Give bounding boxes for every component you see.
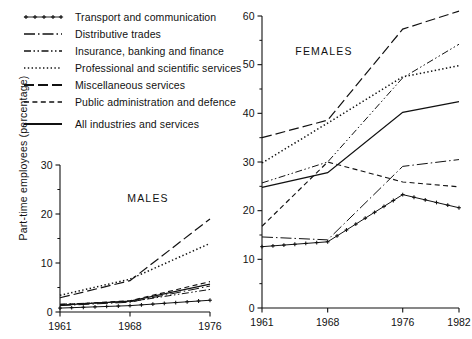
series-marker: [446, 203, 450, 207]
legend-item[interactable]: Public administration and defence: [22, 93, 237, 110]
series-marker: [185, 300, 189, 304]
legend-swatch-dashdotdot: [22, 44, 64, 58]
series-marker: [174, 301, 178, 305]
legend-item[interactable]: Professional and scientific services: [22, 59, 237, 76]
series-marker: [435, 201, 439, 205]
legend-item[interactable]: All industries and services: [22, 115, 237, 132]
y-tick-label: 10: [243, 253, 255, 265]
legend-item[interactable]: Miscellaneous services: [22, 76, 237, 93]
legend-swatch-longdashdot: [22, 27, 64, 41]
panel-title: FEMALES: [295, 45, 352, 57]
y-tick-label: 0: [47, 306, 53, 318]
series-marker: [197, 299, 201, 303]
chart-panel-males: 0102030196119681976MALES: [28, 155, 233, 339]
series-marker: [304, 242, 308, 246]
legend-item[interactable]: Insurance, banking and finance: [22, 42, 237, 59]
x-tick-label: 1976: [391, 316, 415, 328]
x-tick-label: 1961: [250, 316, 274, 328]
series-marker: [140, 303, 144, 307]
series-marker: [423, 198, 427, 202]
series-marker: [58, 306, 62, 310]
legend-item-label: Insurance, banking and finance: [75, 44, 224, 58]
series-marker: [271, 244, 275, 248]
series-marker: [93, 305, 97, 309]
x-tick-label: 1982: [447, 316, 471, 328]
y-tick-label: 0: [249, 302, 255, 314]
series-marker: [260, 245, 264, 249]
series-line-dashdotdot: [262, 44, 459, 183]
x-tick-label: 1968: [118, 320, 142, 332]
series-line-plus: [262, 195, 459, 247]
series-line-longdashdot: [262, 160, 459, 240]
series-line-dashed: [262, 162, 459, 226]
y-tick-label: 20: [243, 204, 255, 216]
series-marker: [162, 301, 166, 305]
series-marker: [116, 304, 120, 308]
series-marker: [457, 206, 461, 210]
legend-item[interactable]: Transport and communication: [22, 8, 237, 25]
y-tick-label: 30: [41, 159, 53, 171]
series-marker: [70, 306, 74, 310]
chart-svg: 0102030196119681976MALES: [28, 155, 233, 339]
chart-svg: 01020304050601961196819761982FEMALES: [232, 8, 472, 338]
legend-item-label: Public administration and defence: [75, 95, 236, 109]
y-tick-label: 30: [243, 156, 255, 168]
panel-title: MALES: [127, 192, 169, 204]
chart-panel-females: 01020304050601961196819761982FEMALES: [232, 8, 472, 338]
legend: Transport and communicationDistributive …: [22, 8, 237, 132]
series-line-longdash: [262, 11, 459, 138]
figure-root: Transport and communicationDistributive …: [0, 0, 472, 339]
legend-item-label: Distributive trades: [75, 27, 161, 41]
y-tick-label: 20: [41, 208, 53, 220]
series-marker: [412, 195, 416, 199]
legend-item-label: Miscellaneous services: [75, 78, 185, 92]
legend-item-label: All industries and services: [75, 117, 199, 131]
series-marker: [81, 305, 85, 309]
legend-item-label: Professional and scientific services: [75, 61, 241, 75]
y-tick-label: 10: [41, 257, 53, 269]
y-tick-label: 60: [243, 10, 255, 22]
y-tick-label: 40: [243, 107, 255, 119]
series-marker: [151, 302, 155, 306]
x-tick-label: 1976: [198, 320, 222, 332]
series-marker: [105, 305, 109, 309]
series-marker: [282, 243, 286, 247]
legend-swatch-plus: [22, 10, 64, 24]
legend-item[interactable]: Distributive trades: [22, 25, 237, 42]
legend-item-label: Transport and communication: [75, 10, 216, 24]
series-marker: [293, 242, 297, 246]
series-marker: [315, 241, 319, 245]
series-line-longdash: [60, 219, 210, 298]
y-tick-label: 50: [243, 58, 255, 70]
x-tick-label: 1961: [48, 320, 72, 332]
x-tick-label: 1968: [316, 316, 340, 328]
series-marker: [208, 298, 212, 302]
series-marker: [128, 304, 132, 308]
